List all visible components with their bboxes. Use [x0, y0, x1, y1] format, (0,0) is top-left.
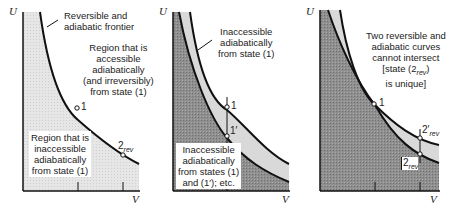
x-axis-label: V	[430, 193, 437, 205]
inaccessible-region-label: Region that is inaccessible adiabaticall…	[29, 131, 91, 177]
x-axis-label: V	[132, 193, 139, 205]
frontier-label: Reversible and adiabatic frontier	[64, 10, 134, 32]
state-1-marker	[372, 102, 376, 106]
leader-arrow	[198, 40, 212, 50]
uniqueness-note: Two reversible and adiabatic curves cann…	[366, 30, 446, 89]
state-2rev-marker	[121, 153, 125, 157]
state-1-label: 1	[81, 101, 87, 112]
y-axis-label: U	[159, 5, 167, 17]
state-2rev-marker	[418, 152, 422, 156]
state-1prime-marker	[225, 134, 229, 138]
state-1-label: 1	[231, 100, 237, 111]
y-axis-label: U	[9, 5, 17, 17]
panel-c: U V Two reversible and adiabatic curves …	[300, 0, 449, 210]
panel-a: U V Reversible and adiabatic frontier Re…	[0, 0, 150, 210]
state-1-marker	[75, 106, 79, 110]
state-1prime-label: 1′	[230, 125, 237, 136]
leader-arrow	[47, 20, 58, 27]
region-inaccessible-label: Inaccessible adiabatically from states (…	[176, 143, 241, 189]
state-2rev-label: 2rev	[118, 140, 133, 153]
state-1-label: 1	[379, 97, 385, 108]
x-axis-label: V	[282, 193, 289, 205]
state-2prime-rev-label: 2′rev	[422, 124, 439, 137]
accessible-region-label: Region that is accessible adiabatically …	[83, 42, 154, 97]
y-axis-label: U	[306, 5, 314, 17]
state-1-marker	[225, 105, 229, 109]
band-inaccessible-label: Inaccessible adiabatically from state (1…	[218, 26, 275, 59]
state-2rev-label: 2rev	[401, 157, 418, 170]
panel-b: U V Inaccessible adiabatically from stat…	[150, 0, 300, 210]
